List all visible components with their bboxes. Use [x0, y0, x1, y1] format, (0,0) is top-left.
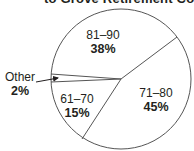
- slice-category: 61–70: [56, 92, 98, 106]
- slice-category: 81–90: [78, 28, 128, 42]
- slice-label-other: Other 2%: [2, 70, 38, 98]
- slice-percent: 2%: [2, 84, 38, 98]
- slice-label-71-80: 71–80 45%: [131, 86, 181, 114]
- slice-category: 71–80: [131, 86, 181, 100]
- slice-percent: 45%: [131, 100, 181, 114]
- slice-label-81-90: 81–90 38%: [78, 28, 128, 56]
- slice-category: Other: [2, 70, 38, 84]
- slice-label-61-70: 61–70 15%: [56, 92, 98, 120]
- slice-percent: 38%: [78, 42, 128, 56]
- slice-percent: 15%: [56, 106, 98, 120]
